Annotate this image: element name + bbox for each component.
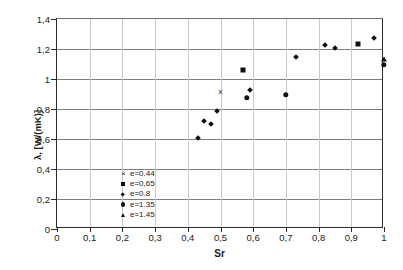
y-axis-tick: [51, 19, 57, 20]
legend-item: ×e=0.44: [121, 169, 155, 179]
legend-swatch: [121, 182, 125, 186]
data-point-diamond: [293, 54, 299, 60]
x-axis-tick-label: 0,1: [83, 232, 96, 243]
legend-item-label: e=0,65: [130, 179, 155, 189]
data-point-circle: [283, 92, 288, 97]
gridline-vertical: [90, 19, 91, 227]
legend-marker-triangle-icon: [121, 213, 130, 217]
data-point-triangle: [381, 57, 387, 62]
y-axis-tick-label: 1: [45, 74, 50, 85]
gridline-vertical: [188, 19, 189, 227]
legend-item: e=1.45: [121, 210, 155, 220]
data-point-square: [241, 68, 246, 73]
x-axis-title: Sr: [56, 248, 383, 259]
x-axis-tick-label: 0,9: [345, 232, 358, 243]
x-axis-tick-label: 1: [381, 232, 386, 243]
data-point-diamond: [371, 35, 377, 41]
gridline-horizontal: [57, 79, 382, 80]
x-axis-tick-label: 0,3: [148, 232, 161, 243]
gridline-vertical: [351, 19, 352, 227]
data-point-square: [355, 42, 360, 47]
legend-swatch: [121, 202, 125, 206]
legend-item: e=0,65: [121, 179, 155, 189]
legend-item-label: e=1.35: [130, 200, 155, 210]
data-point-diamond: [201, 118, 207, 124]
data-point-cross: ×: [218, 87, 223, 96]
y-axis-tick-label: 1,4: [37, 14, 50, 25]
legend-marker-diamond-icon: [121, 193, 130, 196]
x-axis-tick-label: 0,2: [116, 232, 129, 243]
legend-marker-square-icon: [121, 182, 130, 186]
plot-area: 00,20,40,60,811,21,400,10,20,30,40,50,60…: [56, 18, 383, 228]
x-axis-tick-label: 0,8: [312, 232, 325, 243]
y-axis-tick: [51, 169, 57, 170]
legend-item-label: e=0.8: [130, 189, 150, 199]
y-axis-tick: [51, 49, 57, 50]
y-axis-tick: [51, 139, 57, 140]
y-axis-tick-label: 0,8: [37, 104, 50, 115]
scatter-chart-figure: λ, [W/(mK)] 00,20,40,60,811,21,400,10,20…: [0, 0, 403, 270]
gridline-vertical: [155, 19, 156, 227]
y-axis-tick-label: 0,2: [37, 194, 50, 205]
y-axis-tick-label: 0: [45, 224, 50, 235]
x-axis-tick-label: 0: [54, 232, 59, 243]
gridline-vertical: [319, 19, 320, 227]
data-point-circle: [381, 62, 386, 67]
x-axis-tick-label: 0,4: [181, 232, 194, 243]
legend-item: e=0.8: [121, 189, 155, 199]
data-point-diamond: [208, 122, 214, 128]
legend-item-label: e=1.45: [130, 210, 155, 220]
x-axis-tick-label: 0,5: [214, 232, 227, 243]
gridline-vertical: [221, 19, 222, 227]
legend-marker-circle-icon: [121, 202, 130, 206]
chart-legend: ×e=0.44e=0,65e=0.8e=1.35e=1.45: [121, 169, 155, 220]
y-axis-tick: [51, 79, 57, 80]
data-point-diamond: [332, 45, 338, 51]
data-point-diamond: [195, 135, 201, 141]
y-axis-tick-label: 1,2: [37, 44, 50, 55]
data-point-diamond: [247, 87, 253, 93]
gridline-horizontal: [57, 139, 382, 140]
gridline-horizontal: [57, 199, 382, 200]
legend-item: e=1.35: [121, 200, 155, 210]
y-axis-tick-label: 0,6: [37, 134, 50, 145]
legend-swatch: ×: [121, 170, 126, 178]
x-axis-tick-label: 0,7: [279, 232, 292, 243]
y-axis-tick: [51, 199, 57, 200]
x-axis-tick-label: 0,6: [247, 232, 260, 243]
legend-swatch: [120, 192, 125, 197]
gridline-vertical: [286, 19, 287, 227]
data-point-circle: [244, 95, 249, 100]
legend-marker-cross-icon: ×: [121, 170, 130, 178]
legend-item-label: e=0.44: [130, 169, 155, 179]
y-axis-tick: [51, 109, 57, 110]
gridline-vertical: [253, 19, 254, 227]
data-point-diamond: [322, 43, 328, 49]
gridline-horizontal: [57, 169, 382, 170]
y-axis-tick-label: 0,4: [37, 164, 50, 175]
legend-swatch: [121, 213, 125, 217]
